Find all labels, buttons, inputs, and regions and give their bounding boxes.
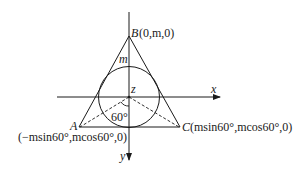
label-angle: 60° [111, 110, 128, 124]
label-y: y [119, 149, 126, 163]
label-b: B [131, 26, 139, 40]
origin-point [128, 96, 131, 99]
triangle-incircle-diagram: B (0,m,0) m z x y 60° A (−msin60°,mcos60… [0, 0, 304, 171]
label-c-coords: (msin60°,mcos60°,0) [190, 120, 292, 134]
label-z: z [130, 82, 136, 96]
angle-arc [121, 102, 129, 106]
label-m: m [119, 52, 128, 66]
label-b-coords: (0,m,0) [139, 26, 174, 40]
label-a-coords: (−msin60°,mcos60°,0) [18, 130, 127, 144]
label-x: x [210, 82, 217, 96]
